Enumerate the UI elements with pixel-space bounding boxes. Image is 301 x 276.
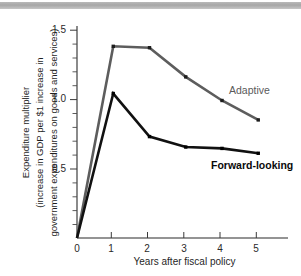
x-axis-ticks (111, 232, 256, 238)
x-tick-label-5: 5 (245, 243, 267, 254)
x-tick-label-2: 2 (136, 243, 158, 254)
data-point-marker (184, 145, 187, 148)
data-point-marker (148, 135, 151, 138)
x-tick-label-3: 3 (173, 243, 195, 254)
series-label-forward: Forward-looking (211, 159, 293, 171)
y-axis-major-ticks (70, 30, 77, 169)
data-point-marker (112, 92, 115, 95)
data-point-marker (257, 152, 260, 155)
data-point-marker (112, 45, 115, 48)
x-tick-label-0: 0 (66, 243, 88, 254)
y-axis-title-line-1: Expenditure multiplier (20, 15, 31, 250)
x-tick-label-1: 1 (100, 243, 122, 254)
data-point-marker (220, 99, 223, 102)
x-tick-label-4: 4 (209, 243, 231, 254)
y-axis-title-line-2: (increase in GDP per $1 increase in (34, 5, 45, 260)
data-point-marker (220, 147, 223, 150)
chart-figure: 1.5 1.0 0.5 0 1 2 3 4 5 Years after fisc… (0, 0, 301, 276)
data-point-marker (148, 46, 151, 49)
y-axis-minor-ticks (73, 44, 78, 224)
series-label-adaptive: Adaptive (229, 84, 270, 96)
data-point-marker (184, 75, 187, 78)
x-axis-title: Years after fiscal policy (77, 256, 292, 267)
data-point-marker (257, 118, 260, 121)
y-axis-title-line-3: government expenditures on goods and ser… (48, 0, 59, 268)
y-axis-title: Expenditure multiplier (increase in GDP … (0, 0, 62, 276)
series-markers-forward (112, 92, 260, 155)
